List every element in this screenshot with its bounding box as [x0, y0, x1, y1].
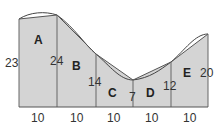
strip-label-c: C	[108, 86, 117, 100]
strip-label-a: A	[34, 33, 43, 47]
strip-label-b: B	[72, 59, 81, 73]
width-label-b: 10	[70, 111, 84, 125]
trapezoid-diagram: A B C D E 23 24 14 7 12 20 10 10 10 10 1…	[0, 0, 219, 126]
height-label-4: 12	[163, 79, 177, 93]
height-label-2: 14	[88, 75, 102, 89]
height-label-1: 24	[50, 54, 64, 68]
height-label-5: 20	[200, 66, 214, 80]
strip-label-e: E	[183, 66, 191, 80]
height-label-3: 7	[129, 90, 136, 104]
width-label-d: 10	[145, 111, 159, 125]
width-label-e: 10	[183, 111, 197, 125]
width-label-a: 10	[31, 111, 45, 125]
height-label-0: 23	[5, 56, 19, 70]
strip-label-d: D	[146, 86, 155, 100]
width-label-c: 10	[107, 111, 121, 125]
